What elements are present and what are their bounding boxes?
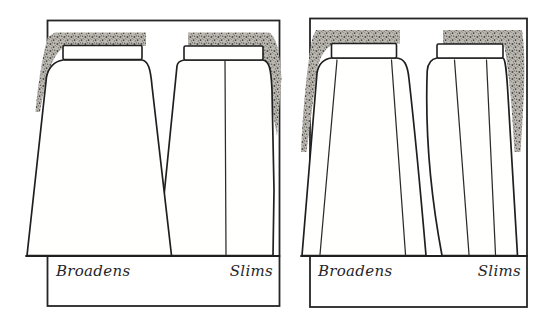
caption-slims-left-panel: Slims (230, 262, 273, 280)
panel-right: Broadens Slims (301, 19, 527, 308)
skirt-flared-fanned-gores (302, 58, 426, 256)
waistband-right (437, 44, 503, 58)
waistband-left (63, 46, 142, 60)
caption-broadens-left-panel: Broadens (55, 262, 130, 280)
figure-canvas: Broadens Slims Broadens Slims (0, 0, 558, 331)
panel-left: Broadens Slims (26, 21, 282, 307)
skirt-straight-vertical-gores (427, 58, 518, 256)
waistband-right (184, 46, 263, 60)
skirt-straight-center-seam (158, 60, 274, 256)
skirt-comparison-illustration: Broadens Slims Broadens Slims (0, 0, 558, 331)
waistband-left (332, 44, 397, 59)
skirt-flared-plain (27, 60, 172, 256)
caption-broadens-right-panel: Broadens (317, 262, 392, 280)
caption-slims-right-panel: Slims (478, 262, 521, 280)
